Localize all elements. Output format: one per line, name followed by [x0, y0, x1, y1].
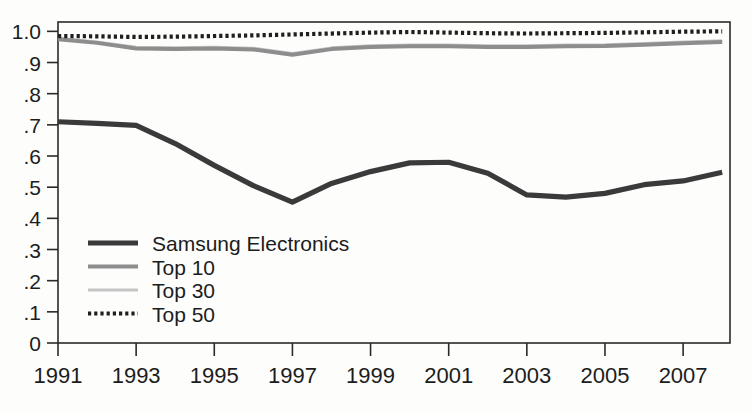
series-line-samsung-electronics [58, 122, 722, 202]
x-tick-label: 2001 [424, 363, 473, 388]
y-tick-label: 1.0 [12, 20, 41, 43]
legend-label-samsung-electronics: Samsung Electronics [152, 232, 349, 255]
y-tick-label: .3 [23, 239, 41, 262]
series-line-top-50 [58, 31, 722, 37]
y-tick-label: .8 [23, 83, 41, 106]
y-tick-label: .7 [23, 114, 41, 137]
y-tick-label: .6 [23, 145, 41, 168]
y-tick-label: 0 [29, 332, 41, 355]
x-tick-label: 2007 [659, 363, 708, 388]
x-tick-label: 2003 [502, 363, 551, 388]
x-tick-label: 1995 [190, 363, 239, 388]
y-axis: 1.0.9.8.7.6.5.4.3.2.10 [12, 20, 58, 355]
x-tick-label: 2005 [581, 363, 630, 388]
series-group [58, 31, 722, 202]
legend-label-top-10: Top 10 [152, 256, 215, 279]
legend-label-top-30: Top 30 [152, 279, 215, 302]
legend: Samsung ElectronicsTop 10Top 30Top 50 [88, 232, 349, 326]
x-axis: 199119931995199719992001200320052007 [34, 343, 708, 388]
x-tick-label: 1997 [268, 363, 317, 388]
legend-label-top-50: Top 50 [152, 303, 215, 326]
y-tick-label: .9 [23, 52, 41, 75]
line-chart: 1.0.9.8.7.6.5.4.3.2.10199119931995199719… [0, 0, 752, 413]
y-tick-label: .1 [23, 301, 41, 324]
chart-canvas: 1.0.9.8.7.6.5.4.3.2.10199119931995199719… [0, 0, 752, 413]
series-line-top-10 [58, 39, 722, 55]
y-tick-label: .4 [23, 207, 41, 230]
x-tick-label: 1993 [112, 363, 161, 388]
x-tick-label: 1991 [34, 363, 83, 388]
y-tick-label: .5 [23, 176, 41, 199]
y-tick-label: .2 [23, 270, 41, 293]
x-tick-label: 1999 [346, 363, 395, 388]
